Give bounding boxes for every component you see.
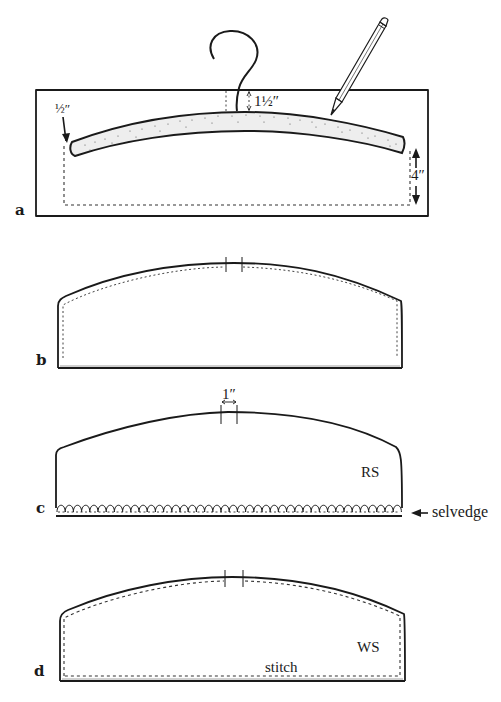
- stitch-label: stitch: [265, 659, 298, 675]
- selvedge-arrowhead: [411, 509, 421, 517]
- fabric-outline: [58, 263, 402, 368]
- wrong-side-label: WS: [357, 639, 380, 655]
- pattern-dashed-outline: [64, 146, 410, 205]
- right-side-label: RS: [361, 464, 379, 480]
- opening-width-label: 1″: [222, 386, 236, 402]
- pencil-icon: [331, 18, 388, 115]
- stitch-line-dashed: [64, 581, 400, 676]
- scalloped-edge: [57, 505, 401, 512]
- depth-label: 4″: [411, 167, 425, 183]
- sewing-diagram: 1½″ ½″ 4″ a b: [0, 0, 501, 702]
- hanger-bar: [70, 112, 404, 156]
- paper-rectangle: [36, 90, 428, 216]
- panel-label-a: a: [15, 201, 25, 219]
- panel-c: 1″ RS selvedge c: [36, 386, 488, 521]
- panel-label-c: c: [36, 499, 45, 517]
- panel-b: b: [36, 257, 402, 369]
- depth-arrowhead-down: [412, 195, 420, 205]
- scallop-stitches: [57, 505, 401, 512]
- hanger-hook: [211, 31, 258, 111]
- panel-a: 1½″ ½″ 4″ a: [15, 18, 428, 219]
- depth-arrowhead-up: [412, 148, 420, 158]
- selvedge-label: selvedge: [432, 503, 488, 521]
- seam-allowance-arrowhead: [62, 133, 70, 143]
- fabric-outline: [56, 412, 402, 508]
- fabric-outline: [60, 577, 405, 681]
- stitch-line-dotted: [63, 267, 397, 358]
- panel-label-b: b: [36, 351, 47, 369]
- seam-allowance-label: ½″: [55, 101, 70, 116]
- panel-d: WS stitch d: [34, 570, 405, 681]
- panel-label-d: d: [34, 662, 45, 680]
- hook-offset-label: 1½″: [254, 93, 279, 109]
